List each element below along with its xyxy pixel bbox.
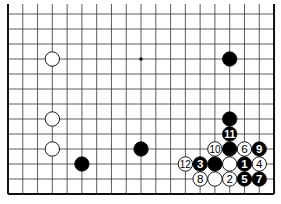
move-number: 9 xyxy=(256,143,262,155)
white-stone-move-12: 12 xyxy=(178,157,192,171)
move-number: 6 xyxy=(241,143,247,155)
white-stone xyxy=(45,142,59,156)
black-stone-move-11: 11 xyxy=(223,127,237,141)
move-number: 2 xyxy=(226,173,232,185)
star-points xyxy=(139,57,143,61)
white-stone-move-8: 8 xyxy=(193,172,207,186)
move-number: 7 xyxy=(256,173,262,185)
black-stone xyxy=(75,157,89,171)
white-stone-move-2: 2 xyxy=(223,172,237,186)
white-stone-move-10: 10 xyxy=(208,142,222,156)
white-stone-move-6: 6 xyxy=(237,142,251,156)
black-stone-move-5: 5 xyxy=(237,172,251,186)
go-board: 111069123148257 xyxy=(0,0,281,204)
star-point xyxy=(139,57,143,61)
move-number: 4 xyxy=(256,158,263,170)
black-stone xyxy=(223,142,237,156)
black-stone xyxy=(208,157,222,171)
move-number: 11 xyxy=(224,129,235,140)
white-stone xyxy=(223,157,237,171)
black-stone xyxy=(223,52,237,66)
black-stone xyxy=(134,142,148,156)
move-number: 3 xyxy=(197,158,203,170)
black-stone-move-7: 7 xyxy=(252,172,266,186)
move-number: 12 xyxy=(180,159,191,170)
black-stone-move-3: 3 xyxy=(193,157,207,171)
black-stone-move-9: 9 xyxy=(252,142,266,156)
move-number: 10 xyxy=(209,144,220,155)
move-number: 8 xyxy=(197,173,203,185)
black-stone-move-1: 1 xyxy=(237,157,251,171)
white-stone xyxy=(45,112,59,126)
white-stone xyxy=(208,172,222,186)
white-stone-move-4: 4 xyxy=(252,157,266,171)
move-number: 5 xyxy=(241,173,248,185)
move-number: 1 xyxy=(241,158,248,170)
white-stone xyxy=(45,52,59,66)
black-stone xyxy=(223,112,237,126)
